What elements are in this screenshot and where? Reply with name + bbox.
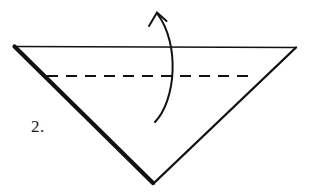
paper-background [0, 0, 310, 196]
origami-step-figure [0, 0, 310, 196]
step-number-label: 2. [31, 118, 45, 135]
diagram-canvas: 2. [0, 0, 310, 196]
